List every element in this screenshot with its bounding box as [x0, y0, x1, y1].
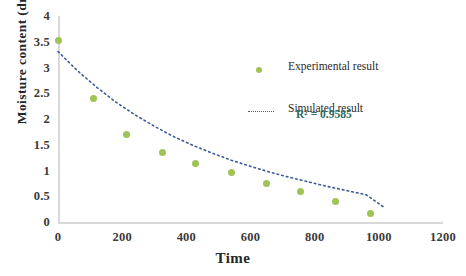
y-axis-title: Moisture content (dry bais) [14, 0, 30, 130]
x-axis-title: Time [0, 250, 466, 267]
y-tick-label: 0.5 [10, 189, 50, 204]
data-point [123, 131, 130, 138]
legend-label-experimental: Experimental result [288, 60, 378, 72]
x-tick-label: 800 [305, 230, 324, 245]
legend: Experimental result Simulated result R² … [246, 60, 446, 124]
data-point [55, 37, 62, 44]
legend-dot-icon [256, 67, 262, 73]
legend-dotted-line-icon [248, 111, 274, 112]
data-point [332, 198, 339, 205]
data-point [90, 95, 97, 102]
y-tick-label: 1 [10, 163, 50, 178]
r-squared-annotation: R² = 0.9585 [296, 108, 352, 120]
x-tick-label: 400 [177, 230, 196, 245]
data-point [367, 210, 374, 217]
legend-item-experimental: Experimental result [246, 60, 446, 82]
x-tick-label: 200 [112, 230, 131, 245]
data-point [228, 169, 235, 176]
data-point [297, 188, 304, 195]
y-tick-label: 0 [10, 215, 50, 230]
x-tick-label: 600 [241, 230, 260, 245]
chart-figure: 00.511.522.533.54 020040060080010001200 … [0, 0, 466, 276]
data-point [159, 149, 166, 156]
data-point [192, 160, 199, 167]
x-tick-label: 0 [55, 230, 61, 245]
x-tick-label: 1000 [366, 230, 392, 245]
x-tick-label: 1200 [430, 230, 456, 245]
data-point [263, 180, 270, 187]
x-axis-line [58, 222, 443, 224]
y-tick-label: 1.5 [10, 137, 50, 152]
